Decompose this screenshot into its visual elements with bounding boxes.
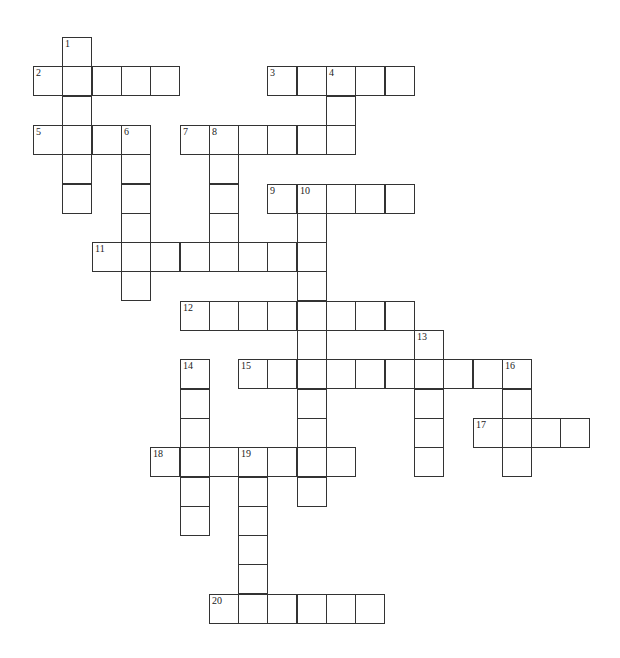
crossword-cell[interactable] xyxy=(267,594,297,624)
crossword-cell[interactable] xyxy=(502,418,532,448)
crossword-cell[interactable] xyxy=(443,359,473,389)
crossword-cell[interactable] xyxy=(297,66,327,96)
crossword-cell[interactable] xyxy=(326,301,356,331)
crossword-cell[interactable] xyxy=(297,125,327,155)
crossword-cell[interactable] xyxy=(121,271,151,301)
crossword-cell[interactable] xyxy=(180,418,210,448)
crossword-cell[interactable] xyxy=(238,477,268,507)
crossword-cell[interactable] xyxy=(180,506,210,536)
crossword-cell[interactable] xyxy=(62,96,92,126)
crossword-cell[interactable] xyxy=(297,359,327,389)
crossword-cell[interactable] xyxy=(121,154,151,184)
crossword-cell[interactable] xyxy=(326,125,356,155)
crossword-cell[interactable] xyxy=(502,447,532,477)
crossword-cell[interactable] xyxy=(560,418,590,448)
crossword-cell[interactable]: 3 xyxy=(267,66,297,96)
crossword-cell[interactable] xyxy=(267,447,297,477)
crossword-cell[interactable] xyxy=(326,184,356,214)
crossword-cell[interactable] xyxy=(531,418,561,448)
crossword-cell[interactable]: 5 xyxy=(33,125,63,155)
crossword-cell[interactable] xyxy=(297,271,327,301)
crossword-cell[interactable] xyxy=(267,359,297,389)
crossword-cell[interactable] xyxy=(355,594,385,624)
crossword-cell[interactable]: 1 xyxy=(62,37,92,67)
crossword-cell[interactable] xyxy=(121,213,151,243)
crossword-cell[interactable]: 2 xyxy=(33,66,63,96)
crossword-cell[interactable] xyxy=(62,125,92,155)
crossword-cell[interactable] xyxy=(355,359,385,389)
crossword-cell[interactable]: 19 xyxy=(238,447,268,477)
crossword-cell[interactable]: 15 xyxy=(238,359,268,389)
crossword-cell[interactable] xyxy=(297,389,327,419)
crossword-cell[interactable] xyxy=(180,477,210,507)
crossword-cell[interactable] xyxy=(180,447,210,477)
crossword-cell[interactable] xyxy=(385,184,415,214)
crossword-cell[interactable] xyxy=(414,389,444,419)
crossword-cell[interactable] xyxy=(267,242,297,272)
crossword-cell[interactable] xyxy=(209,213,239,243)
crossword-cell[interactable] xyxy=(297,418,327,448)
crossword-cell[interactable] xyxy=(297,301,327,331)
crossword-cell[interactable] xyxy=(180,242,210,272)
crossword-cell[interactable] xyxy=(326,96,356,126)
crossword-cell[interactable] xyxy=(326,594,356,624)
crossword-cell[interactable] xyxy=(385,301,415,331)
crossword-cell[interactable] xyxy=(209,242,239,272)
crossword-cell[interactable] xyxy=(355,301,385,331)
crossword-cell[interactable] xyxy=(297,477,327,507)
crossword-cell[interactable] xyxy=(238,242,268,272)
crossword-cell[interactable]: 18 xyxy=(150,447,180,477)
crossword-cell[interactable]: 7 xyxy=(180,125,210,155)
crossword-cell[interactable] xyxy=(209,447,239,477)
crossword-cell[interactable]: 8 xyxy=(209,125,239,155)
crossword-cell[interactable] xyxy=(326,447,356,477)
crossword-cell[interactable]: 4 xyxy=(326,66,356,96)
crossword-cell[interactable] xyxy=(209,154,239,184)
crossword-cell[interactable] xyxy=(209,301,239,331)
crossword-cell[interactable] xyxy=(473,359,503,389)
crossword-cell[interactable] xyxy=(297,594,327,624)
crossword-cell[interactable] xyxy=(297,447,327,477)
crossword-cell[interactable] xyxy=(267,301,297,331)
crossword-cell[interactable] xyxy=(238,535,268,565)
crossword-cell[interactable] xyxy=(385,66,415,96)
crossword-cell[interactable] xyxy=(355,66,385,96)
crossword-cell[interactable] xyxy=(121,184,151,214)
crossword-cell[interactable] xyxy=(414,359,444,389)
crossword-cell[interactable]: 9 xyxy=(267,184,297,214)
crossword-cell[interactable]: 20 xyxy=(209,594,239,624)
crossword-cell[interactable] xyxy=(180,389,210,419)
crossword-cell[interactable]: 17 xyxy=(473,418,503,448)
crossword-cell[interactable] xyxy=(502,389,532,419)
crossword-cell[interactable] xyxy=(385,359,415,389)
crossword-cell[interactable] xyxy=(238,564,268,594)
crossword-cell[interactable] xyxy=(62,154,92,184)
crossword-cell[interactable] xyxy=(238,594,268,624)
crossword-cell[interactable] xyxy=(326,359,356,389)
crossword-cell[interactable]: 13 xyxy=(414,330,444,360)
crossword-cell[interactable]: 6 xyxy=(121,125,151,155)
crossword-cell[interactable] xyxy=(92,66,122,96)
crossword-cell[interactable] xyxy=(355,184,385,214)
crossword-cell[interactable]: 10 xyxy=(297,184,327,214)
crossword-cell[interactable] xyxy=(238,125,268,155)
crossword-cell[interactable]: 16 xyxy=(502,359,532,389)
crossword-cell[interactable] xyxy=(121,66,151,96)
crossword-cell[interactable] xyxy=(267,125,297,155)
crossword-cell[interactable]: 12 xyxy=(180,301,210,331)
crossword-cell[interactable] xyxy=(62,66,92,96)
crossword-cell[interactable]: 11 xyxy=(92,242,122,272)
crossword-cell[interactable] xyxy=(414,418,444,448)
crossword-cell[interactable] xyxy=(414,447,444,477)
crossword-cell[interactable] xyxy=(238,506,268,536)
crossword-cell[interactable] xyxy=(121,242,151,272)
crossword-cell[interactable] xyxy=(92,125,122,155)
crossword-cell[interactable] xyxy=(150,242,180,272)
crossword-cell[interactable] xyxy=(297,213,327,243)
crossword-cell[interactable] xyxy=(238,301,268,331)
crossword-cell[interactable] xyxy=(297,330,327,360)
crossword-cell[interactable] xyxy=(150,66,180,96)
crossword-cell[interactable]: 14 xyxy=(180,359,210,389)
crossword-cell[interactable] xyxy=(62,184,92,214)
crossword-cell[interactable] xyxy=(297,242,327,272)
